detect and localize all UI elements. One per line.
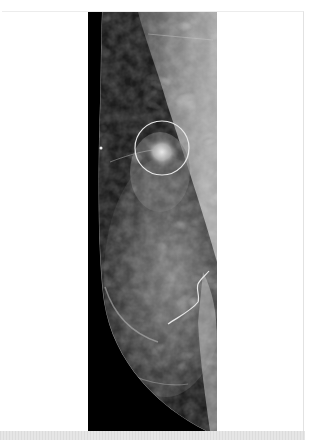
bottom-band xyxy=(0,431,305,440)
mammogram-render xyxy=(88,12,217,431)
mammogram-image xyxy=(88,12,217,431)
calcification-dot xyxy=(100,147,103,150)
